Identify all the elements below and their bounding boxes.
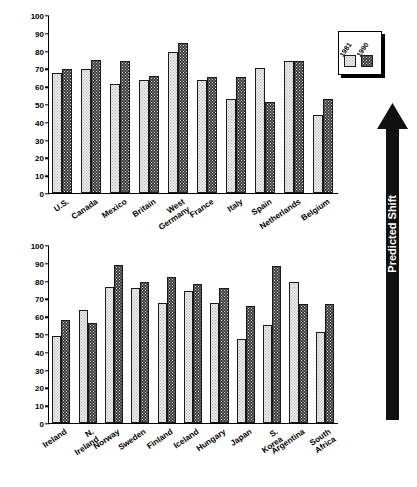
bar-u-s--1990 (62, 69, 72, 193)
y-axis-tick-label: 100 (31, 242, 44, 251)
top-chart-bars (49, 16, 338, 193)
bar-canada-1990 (91, 60, 101, 193)
bar-group (260, 246, 286, 423)
bottom-bar-chart: % saying they discuss politics with frie… (0, 240, 360, 470)
y-axis-tick-label: 70 (35, 295, 44, 304)
bar-italy-1990 (236, 77, 246, 193)
bar-n-ireland-1990 (88, 323, 97, 423)
bar-norway-1990 (114, 265, 123, 423)
bar-group (194, 16, 223, 193)
bar-finland-1990 (167, 277, 176, 423)
bar-belgium-1981 (313, 115, 323, 193)
bar-canada-1981 (81, 69, 91, 193)
legend-swatch-1981 (344, 55, 356, 67)
bar-ireland-1990 (61, 320, 70, 423)
chart-legend: 1981 1990 (338, 31, 382, 75)
y-axis-tick-label: 10 (35, 402, 44, 411)
bar-group (49, 16, 78, 193)
y-axis-tick-label: 100 (31, 12, 44, 21)
bar-group (136, 16, 165, 193)
bottom-chart-bars (49, 246, 338, 423)
top-bar-chart: % saying they discuss politics with frie… (0, 4, 360, 232)
y-axis-tick (45, 33, 49, 34)
y-axis-tick (45, 104, 49, 105)
bar-group (310, 16, 339, 193)
bar-s-korea-1981 (263, 325, 272, 423)
bar-group (181, 246, 207, 423)
y-axis-tick (45, 352, 49, 353)
bar-n-ireland-1981 (79, 310, 88, 423)
bar-belgium-1990 (323, 99, 333, 193)
y-axis-tick-label: 30 (35, 136, 44, 145)
y-axis-tick-label: 40 (35, 348, 44, 357)
y-axis-tick (45, 245, 49, 246)
bar-france-1990 (207, 77, 217, 193)
y-axis-tick-label: 70 (35, 65, 44, 74)
y-axis-tick (45, 140, 49, 141)
y-axis-tick-label: 40 (35, 118, 44, 127)
bar-argentina-1990 (299, 304, 308, 423)
bar-sweden-1990 (140, 282, 149, 423)
y-axis-tick (45, 86, 49, 87)
bar-group (313, 246, 339, 423)
bottom-chart-plot-area: 0102030405060708090100 (48, 246, 338, 424)
y-axis-tick (45, 15, 49, 16)
bar-mexico-1981 (110, 84, 120, 193)
bar-group (78, 16, 107, 193)
bar-s-korea-1990 (272, 266, 281, 423)
bar-finland-1981 (158, 303, 167, 423)
y-axis-tick (45, 281, 49, 282)
y-axis-tick (45, 122, 49, 123)
bar-hungary-1990 (219, 288, 228, 423)
bar-iceland-1990 (193, 284, 202, 423)
top-chart-plot-area: 0102030405060708090100 (48, 16, 338, 194)
bar-japan-1981 (237, 339, 246, 423)
y-axis-tick-label: 20 (35, 154, 44, 163)
predicted-shift-label: Predicted Shift (386, 195, 398, 273)
bar-netherlands-1990 (294, 61, 304, 193)
y-axis-tick-label: 0 (40, 420, 44, 429)
bar-group (286, 246, 312, 423)
bar-south-africa-1990 (325, 304, 334, 423)
bar-argentina-1981 (289, 282, 298, 423)
y-axis-tick-label: 60 (35, 83, 44, 92)
bar-britain-1990 (149, 76, 159, 193)
bar-iceland-1981 (184, 291, 193, 423)
bar-spain-1990 (265, 102, 275, 193)
bar-u-s--1981 (52, 73, 62, 193)
bar-norway-1981 (105, 287, 114, 423)
bar-group (128, 246, 154, 423)
bar-group (107, 16, 136, 193)
y-axis-tick-label: 90 (35, 29, 44, 38)
y-axis-tick (45, 405, 49, 406)
bar-group (165, 16, 194, 193)
y-axis-tick (45, 175, 49, 176)
y-axis-tick-label: 10 (35, 172, 44, 181)
y-axis-tick-label: 50 (35, 331, 44, 340)
y-axis-tick (45, 388, 49, 389)
bar-france-1981 (197, 80, 207, 193)
bar-hungary-1981 (210, 303, 219, 423)
bar-group (75, 246, 101, 423)
bar-group (207, 246, 233, 423)
bar-netherlands-1981 (284, 61, 294, 193)
y-axis-tick (45, 299, 49, 300)
bar-group (49, 246, 75, 423)
bar-britain-1981 (139, 80, 149, 193)
bar-south-africa-1981 (316, 332, 325, 423)
y-axis-tick (45, 423, 49, 424)
y-axis-tick-label: 0 (40, 190, 44, 199)
y-axis-tick (45, 69, 49, 70)
bar-mexico-1990 (120, 61, 130, 193)
y-axis-tick-label: 90 (35, 259, 44, 268)
y-axis-tick-label: 80 (35, 277, 44, 286)
bar-group (281, 16, 310, 193)
bar-japan-1990 (246, 306, 255, 423)
bar-group (252, 16, 281, 193)
bar-group (234, 246, 260, 423)
legend-swatch-1990 (361, 55, 373, 67)
y-axis-tick (45, 158, 49, 159)
y-axis-tick-label: 50 (35, 101, 44, 110)
y-axis-tick (45, 334, 49, 335)
bar-group (102, 246, 128, 423)
